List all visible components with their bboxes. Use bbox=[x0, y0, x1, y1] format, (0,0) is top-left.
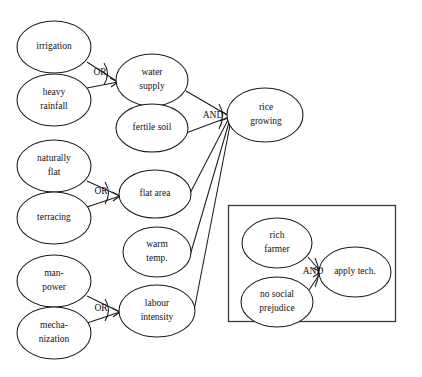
node-label-apply-tech: apply tech. bbox=[334, 266, 376, 276]
gate-label-and-rice: AND bbox=[203, 110, 224, 120]
node-label-naturally-flat-line1: naturally bbox=[37, 153, 71, 163]
gate-label-or-labour: OR bbox=[94, 303, 108, 313]
node-label-irrigation: irrigation bbox=[36, 41, 72, 51]
gate-label-or-water: OR bbox=[93, 67, 107, 77]
node-no-social-prejudice[interactable]: no social prejudice bbox=[241, 277, 313, 327]
node-label-labour-intensity-line2: intensity bbox=[141, 312, 174, 322]
node-ellipse-rice-growing bbox=[227, 88, 303, 142]
node-man-power[interactable]: man- power bbox=[17, 255, 91, 307]
node-ellipse-man-power bbox=[17, 255, 91, 307]
node-label-warm-temp-line2: temp. bbox=[146, 253, 167, 263]
node-heavy-rainfall[interactable]: heavy rainfall bbox=[17, 74, 91, 126]
node-label-warm-temp-line1: warm bbox=[146, 239, 168, 249]
node-ellipse-warm-temp bbox=[123, 227, 191, 277]
node-rich-farmer[interactable]: rich farmer bbox=[242, 218, 312, 268]
edge-group-rice-growing bbox=[186, 91, 231, 316]
node-ellipse-naturally-flat bbox=[17, 140, 91, 192]
node-apply-tech[interactable]: apply tech. bbox=[319, 247, 391, 297]
node-label-heavy-rainfall-line1: heavy bbox=[43, 87, 66, 97]
node-label-naturally-flat-line2: flat bbox=[48, 167, 61, 177]
node-label-fertile-soil: fertile soil bbox=[133, 122, 172, 132]
edge-terracing-flat-area bbox=[87, 196, 120, 207]
node-label-rice-growing-line1: rice bbox=[259, 102, 273, 112]
node-ellipse-water-supply bbox=[116, 54, 188, 106]
node-water-supply[interactable]: water supply bbox=[116, 54, 188, 106]
node-label-terracing: terracing bbox=[37, 212, 71, 222]
node-naturally-flat[interactable]: naturally flat bbox=[17, 140, 91, 192]
node-ellipse-no-social-prejudice bbox=[241, 277, 313, 327]
node-irrigation[interactable]: irrigation bbox=[17, 21, 91, 73]
node-fertile-soil[interactable]: fertile soil bbox=[116, 104, 188, 152]
node-terracing[interactable]: terracing bbox=[17, 192, 91, 244]
gate-label-or-flat: OR bbox=[94, 186, 108, 196]
gate-label-and-tech: AND bbox=[303, 266, 324, 276]
node-label-water-supply-line2: supply bbox=[139, 81, 165, 91]
node-label-man-power-line1: man- bbox=[44, 268, 64, 278]
node-label-flat-area: flat area bbox=[140, 188, 172, 198]
node-rice-growing[interactable]: rice growing bbox=[227, 88, 303, 142]
node-label-heavy-rainfall-line2: rainfall bbox=[40, 101, 68, 111]
node-label-mechanization-line2: nization bbox=[39, 334, 70, 344]
node-mechanization[interactable]: mecha- nization bbox=[17, 307, 91, 359]
node-flat-area[interactable]: flat area bbox=[119, 170, 191, 218]
node-label-man-power-line2: power bbox=[42, 282, 67, 292]
node-ellipse-heavy-rainfall bbox=[17, 74, 91, 126]
causal-diagram: irrigation heavy rainfall naturally flat… bbox=[0, 0, 422, 377]
diagram-canvas: irrigation heavy rainfall naturally flat… bbox=[0, 0, 422, 377]
node-label-water-supply-line1: water bbox=[141, 67, 163, 77]
node-ellipse-mechanization bbox=[17, 307, 91, 359]
node-label-no-social-prejudice-line2: prejudice bbox=[259, 303, 294, 313]
node-label-mechanization-line1: mecha- bbox=[40, 320, 68, 330]
node-label-rice-growing-line2: growing bbox=[250, 116, 282, 126]
node-label-labour-intensity-line1: labour bbox=[145, 298, 170, 308]
node-ellipse-rich-farmer bbox=[242, 218, 312, 268]
node-ellipse-labour-intensity bbox=[119, 285, 195, 337]
node-label-no-social-prejudice-line1: no social bbox=[260, 289, 294, 299]
node-labour-intensity[interactable]: labour intensity bbox=[119, 285, 195, 337]
node-label-rich-farmer-line2: farmer bbox=[264, 244, 290, 254]
node-label-rich-farmer-line1: rich bbox=[270, 230, 285, 240]
edge-mechanization-labour-intensity bbox=[87, 312, 120, 323]
edge-labour-intensity-rice-growing bbox=[193, 120, 231, 316]
node-warm-temp[interactable]: warm temp. bbox=[123, 227, 191, 277]
edge-warm-temp-rice-growing bbox=[189, 119, 230, 259]
